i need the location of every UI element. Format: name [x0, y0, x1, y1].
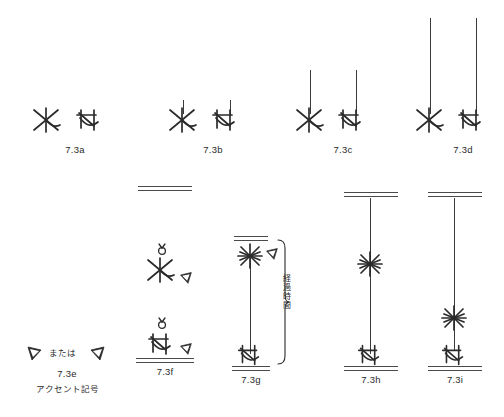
duration-annotation: 経過時間 [280, 274, 290, 310]
panel-label-7-3g: 7.3g [232, 374, 270, 385]
accent-wedge-right-icon [88, 344, 106, 362]
staff-rule-bottom [428, 370, 482, 371]
crossed-hook-note-icon [354, 340, 386, 372]
crossed-hook-note-icon [144, 328, 178, 362]
staff-rule-top [428, 196, 482, 197]
staff-rule-bottom [232, 370, 270, 371]
staff-rule-top [428, 192, 482, 193]
panel-7-3c: 7.3c [288, 100, 398, 160]
accent-wedge-right-icon [178, 341, 193, 356]
panel-caption-7-3e: アクセント記号 [12, 382, 122, 394]
x-cross-note-icon [293, 104, 327, 138]
staff-rule-top [344, 192, 398, 193]
crossed-hook-note-icon [334, 104, 368, 138]
staff-rule-bottom [344, 370, 398, 371]
staff-rule-top [344, 196, 398, 197]
panel-label-7-3c: 7.3c [288, 144, 398, 155]
accent-or-text: または [49, 346, 76, 358]
panel-label-7-3i: 7.3i [428, 374, 482, 385]
star-burst-icon [440, 304, 468, 332]
note-stem [476, 18, 477, 114]
panel-label-7-3f: 7.3f [136, 366, 194, 377]
panel-7-3a: 7.3a [20, 100, 130, 160]
panel-7-3e: または 7.3e アクセント記号 [12, 344, 122, 404]
notation-figure: 7.3a [0, 0, 504, 417]
accent-wedge-right-icon [178, 270, 193, 285]
crossed-hook-note-icon [454, 104, 488, 138]
staff-rule-bottom [344, 366, 398, 367]
panel-7-3g: 7.3g 経過時間 [232, 236, 312, 386]
staff-rule-bottom [136, 362, 194, 363]
panel-7-3h: 7.3h [344, 192, 424, 388]
panel-7-3d: 7.3d [408, 100, 504, 160]
staff-rule-top [234, 240, 268, 241]
x-cross-note-icon [30, 104, 64, 138]
crossed-hook-note-icon [438, 340, 470, 372]
panel-7-3i: 7.3i [428, 192, 504, 388]
crossed-hook-note-icon [234, 340, 266, 372]
x-cross-note-icon [166, 104, 200, 138]
staff-rule-top [138, 186, 192, 187]
star-burst-icon [236, 242, 264, 270]
note-stem [430, 18, 431, 114]
panel-label-7-3h: 7.3h [344, 374, 398, 385]
crossed-hook-note-icon [72, 104, 106, 138]
x-cross-note-icon [144, 254, 178, 288]
staff-rule-top [138, 190, 192, 191]
panel-label-7-3b: 7.3b [158, 144, 268, 155]
panel-7-3f: 7.3f [136, 186, 228, 386]
crossed-hook-note-icon [208, 104, 242, 138]
staff-rule-bottom [428, 366, 482, 367]
panel-label-7-3d: 7.3d [408, 144, 504, 155]
accent-wedge-left-icon [26, 344, 44, 362]
panel-label-7-3a: 7.3a [20, 144, 130, 155]
staff-rule-bottom [232, 366, 270, 367]
staff-rule-bottom [136, 358, 194, 359]
panel-label-7-3e: 7.3e [12, 368, 122, 379]
panel-7-3b: 7.3b [158, 100, 268, 160]
x-cross-note-icon [413, 104, 447, 138]
staff-rule-top [234, 236, 268, 237]
star-burst-icon [356, 250, 384, 278]
